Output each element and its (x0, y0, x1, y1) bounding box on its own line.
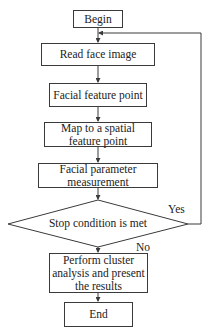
node-read-label: Read face image (60, 48, 137, 61)
node-cluster-label-line1: Perform cluster (63, 254, 134, 267)
node-measure-label-line2: measurement (67, 176, 128, 189)
node-facial-parameter-measurement: Facial parameter measurement (38, 163, 158, 188)
node-measure-label-line1: Facial parameter (60, 163, 137, 176)
node-map-spatial-feature: Map to a spatial feature point (44, 122, 152, 147)
node-feature-label: Facial feature point (53, 89, 142, 102)
node-facial-feature-point: Facial feature point (49, 83, 147, 107)
node-map-label-line1: Map to a spatial (61, 122, 135, 135)
edge-label-yes: Yes (168, 203, 185, 215)
node-end: End (64, 302, 133, 327)
node-end-label: End (89, 308, 108, 321)
node-cluster-label-line3: the results (75, 280, 122, 293)
node-map-label-line2: feature point (69, 135, 127, 148)
node-begin-label: Begin (84, 13, 111, 26)
edge-label-no: No (136, 241, 150, 253)
node-perform-cluster-analysis: Perform cluster analysis and present the… (49, 253, 148, 293)
node-begin: Begin (73, 10, 123, 28)
node-read-face-image: Read face image (41, 43, 155, 66)
node-cluster-label-line2: analysis and present (52, 267, 145, 280)
node-stop-condition-label: Stop condition is met (8, 217, 188, 229)
